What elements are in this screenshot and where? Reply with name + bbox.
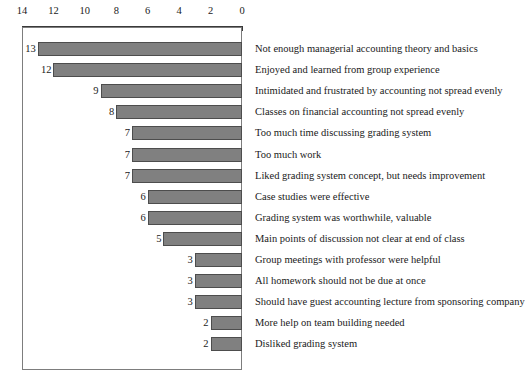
bar-value-label: 12 <box>41 64 54 76</box>
bar-row: 6Case studies were effective <box>0 190 488 204</box>
x-axis-tick-label: 8 <box>114 6 119 17</box>
bar-row: 3All homework should not be due at once <box>0 274 488 288</box>
x-axis-tick-label: 4 <box>177 6 182 17</box>
bar-value-label: 9 <box>93 85 100 97</box>
bar <box>101 84 242 98</box>
bar <box>38 42 242 56</box>
bar <box>195 253 242 267</box>
bar-value-label: 7 <box>125 127 132 139</box>
bar <box>211 316 242 330</box>
bar-category-label: Should have guest accounting lecture fro… <box>255 295 525 309</box>
bar-category-label: All homework should not be due at once <box>255 274 426 288</box>
x-axis-tick-label: 14 <box>17 6 28 17</box>
bar <box>195 274 242 288</box>
bar <box>211 337 242 351</box>
x-axis-tick-label: 10 <box>80 6 91 17</box>
bar-value-label: 7 <box>125 170 132 182</box>
bar-category-label: Liked grading system concept, but needs … <box>255 169 485 183</box>
bar-category-label: Intimidated and frustrated by accounting… <box>255 84 503 98</box>
bar-value-label: 6 <box>140 212 147 224</box>
bar-row: 9Intimidated and frustrated by accountin… <box>0 84 488 98</box>
bar-value-label: 7 <box>125 149 132 161</box>
bar-value-label: 3 <box>188 254 195 266</box>
bar-category-label: Grading system was worthwhile, valuable <box>255 211 431 225</box>
bar-row: 13Not enough managerial accounting theor… <box>0 42 488 56</box>
bar <box>132 126 242 140</box>
bar-value-label: 6 <box>140 191 147 203</box>
bar <box>132 169 242 183</box>
bar-category-label: Group meetings with professor were helpf… <box>255 253 441 267</box>
bar <box>163 232 242 246</box>
bar-value-label: 3 <box>188 296 195 308</box>
bar-value-label: 3 <box>188 275 195 287</box>
bar <box>195 295 242 309</box>
x-axis-tick <box>242 26 243 31</box>
bar-row: 7Liked grading system concept, but needs… <box>0 169 488 183</box>
bar-row: 7Too much time discussing grading system <box>0 126 488 140</box>
bar-row: 2More help on team building needed <box>0 316 488 330</box>
bar-row: 8Classes on financial accounting not spr… <box>0 105 488 119</box>
bar-value-label: 5 <box>156 233 163 245</box>
bar-category-label: Too much time discussing grading system <box>255 126 431 140</box>
bar-value-label: 2 <box>203 338 210 350</box>
bar-row: 12Enjoyed and learned from group experie… <box>0 63 488 77</box>
bar <box>148 190 242 204</box>
bar-category-label: Too much work <box>255 148 321 162</box>
bar <box>53 63 242 77</box>
bar <box>132 148 242 162</box>
bar-row: 6Grading system was worthwhile, valuable <box>0 211 488 225</box>
bar-category-label: Enjoyed and learned from group experienc… <box>255 63 440 77</box>
x-axis-tick-label: 6 <box>145 6 150 17</box>
bar-row: 2Disliked grading system <box>0 337 488 351</box>
x-axis-tick-label: 2 <box>208 6 213 17</box>
x-axis-tick-label: 12 <box>48 6 59 17</box>
bar-category-label: More help on team building needed <box>255 316 405 330</box>
x-axis-tick-label: 0 <box>239 6 244 17</box>
bar-category-label: Not enough managerial accounting theory … <box>255 42 478 56</box>
bar-category-label: Case studies were effective <box>255 190 369 204</box>
bar-row: 7Too much work <box>0 148 488 162</box>
bar-category-label: Main points of discussion not clear at e… <box>255 232 465 246</box>
bar-value-label: 13 <box>25 43 38 55</box>
bar-row: 3Group meetings with professor were help… <box>0 253 488 267</box>
bar <box>148 211 242 225</box>
bar-value-label: 2 <box>203 317 210 329</box>
bar-category-label: Disliked grading system <box>255 337 357 351</box>
bar <box>116 105 242 119</box>
bar-value-label: 8 <box>109 106 116 118</box>
bar-row: 5Main points of discussion not clear at … <box>0 232 488 246</box>
bar-category-label: Classes on financial accounting not spre… <box>255 105 464 119</box>
bar-row: 3Should have guest accounting lecture fr… <box>0 295 488 309</box>
